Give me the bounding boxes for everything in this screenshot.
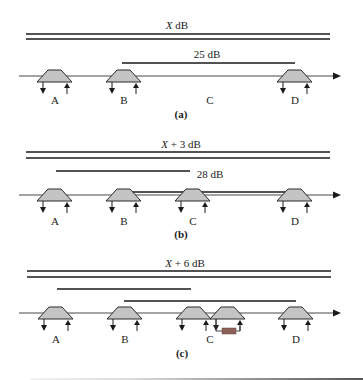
- down-arrow-icon: [178, 207, 184, 213]
- up-arrow-icon: [133, 83, 139, 88]
- amplifier-trapezoid: [106, 70, 141, 82]
- amplifier-cascade-diagram: X dB25 dBABCD(a)X + 3 dB28 dBABCD(b)X + …: [0, 0, 363, 380]
- amplifier-trapezoid: [37, 189, 72, 201]
- down-arrow-icon: [40, 88, 46, 94]
- down-arrow-icon: [280, 88, 286, 94]
- up-arrow-icon: [202, 202, 208, 207]
- span-loss-label: 25 dB: [194, 48, 221, 60]
- arrow-right-icon: [333, 310, 341, 317]
- panel-b: X + 3 dB28 dBABCD(b): [19, 138, 341, 241]
- amplifier-trapezoid: [106, 189, 141, 201]
- up-arrow-icon: [65, 320, 71, 325]
- amplifier-node-b: [107, 307, 142, 331]
- amplifier-trapezoid: [277, 70, 312, 82]
- amplifier-trapezoid: [37, 70, 72, 82]
- amplifier-node-d: [277, 70, 312, 94]
- span-loss-label: 28 dB: [197, 168, 224, 180]
- node-label-a: A: [51, 215, 59, 227]
- budget-label: X + 3 dB: [160, 138, 201, 150]
- panel-caption: (b): [174, 228, 188, 241]
- amplifier-trapezoid: [277, 189, 312, 201]
- down-arrow-icon: [281, 325, 287, 331]
- budget-label: X dB: [165, 19, 188, 31]
- node-label-c: C: [206, 333, 213, 345]
- up-arrow-icon: [133, 202, 139, 207]
- node-label-d: D: [291, 215, 299, 227]
- bypass-wire: [236, 326, 240, 331]
- amplifier-node-a: [37, 70, 72, 94]
- up-arrow-icon: [64, 83, 70, 88]
- amplifier-node-c-1: [176, 307, 211, 331]
- arrow-right-icon: [333, 192, 341, 199]
- down-arrow-icon: [109, 88, 115, 94]
- dispersion-compensator-box: [222, 328, 236, 334]
- panel-c: X + 6 dBABCD(c): [19, 257, 341, 360]
- down-arrow-icon: [109, 207, 115, 213]
- down-arrow-icon: [179, 325, 185, 331]
- down-arrow-icon: [40, 207, 46, 213]
- node-label-c: C: [189, 215, 196, 227]
- amplifier-node-a: [37, 189, 72, 213]
- node-label-b: B: [121, 333, 128, 345]
- up-arrow-icon: [304, 202, 310, 207]
- up-arrow-icon: [203, 320, 209, 325]
- up-arrow-icon: [237, 320, 243, 325]
- amplifier-node-d: [278, 307, 313, 331]
- amplifier-trapezoid: [210, 307, 245, 319]
- node-label-a: A: [52, 333, 60, 345]
- amplifier-node-b: [106, 70, 141, 94]
- down-arrow-icon: [110, 325, 116, 331]
- amplifier-trapezoid: [107, 307, 142, 319]
- budget-label: X + 6 dB: [164, 257, 205, 269]
- amplifier-trapezoid: [38, 307, 73, 319]
- panel-caption: (a): [175, 108, 188, 121]
- arrow-right-icon: [333, 73, 341, 80]
- up-arrow-icon: [304, 83, 310, 88]
- node-label-d: D: [291, 94, 299, 106]
- node-label-a: A: [51, 94, 59, 106]
- amplifier-node-a: [38, 307, 73, 331]
- amplifier-trapezoid: [175, 189, 210, 201]
- node-label-b: B: [120, 215, 127, 227]
- up-arrow-icon: [305, 320, 311, 325]
- node-label-d: D: [292, 333, 300, 345]
- panel-caption: (c): [176, 347, 189, 360]
- amplifier-trapezoid: [176, 307, 211, 319]
- node-label-b: B: [120, 94, 127, 106]
- down-arrow-icon: [41, 325, 47, 331]
- down-arrow-icon: [280, 207, 286, 213]
- amplifier-trapezoid: [278, 307, 313, 319]
- panel-a: X dB25 dBABCD(a): [19, 19, 341, 121]
- up-arrow-icon: [64, 202, 70, 207]
- node-label-c: C: [206, 94, 213, 106]
- up-arrow-icon: [134, 320, 140, 325]
